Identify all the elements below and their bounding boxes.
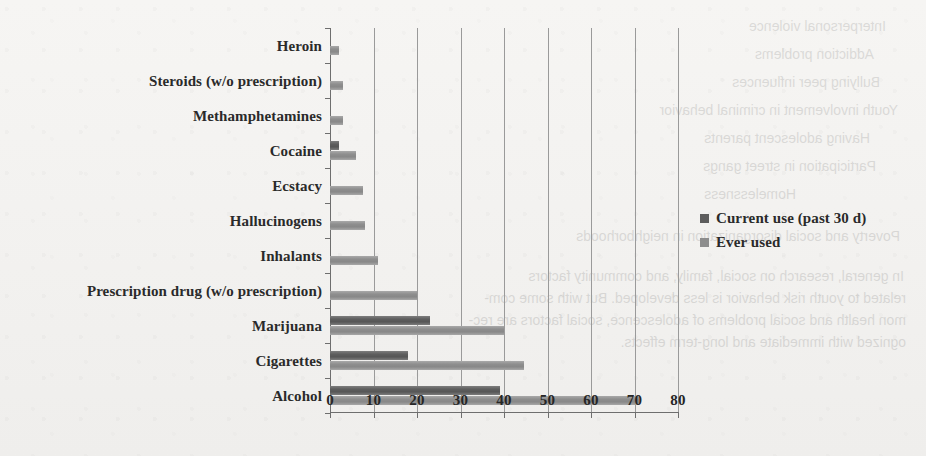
y-axis-tick <box>325 98 331 99</box>
legend-item-label: Ever used <box>716 234 780 251</box>
y-axis-tick <box>325 378 331 379</box>
bar-current-use <box>330 141 339 150</box>
legend-swatch-icon <box>700 238 709 247</box>
x-axis-tick <box>548 412 549 418</box>
legend-swatch-icon <box>700 214 709 223</box>
gridline <box>678 28 679 413</box>
gridline <box>504 28 505 413</box>
x-axis-tick-label: 10 <box>366 392 381 409</box>
y-axis-tick <box>325 63 331 64</box>
y-axis-tick <box>325 273 331 274</box>
x-axis-tick-label: 70 <box>627 392 642 409</box>
bar-ever-used <box>330 326 504 335</box>
y-axis-category-label: Inhalants <box>260 247 322 264</box>
x-axis-tick <box>504 412 505 418</box>
bar-ever-used <box>330 256 378 265</box>
y-axis-tick <box>325 203 331 204</box>
y-axis-tick <box>325 343 331 344</box>
x-axis-tick <box>591 412 592 418</box>
x-axis-tick <box>461 412 462 418</box>
legend-item-ever-used[interactable]: Ever used <box>700 234 866 251</box>
x-axis-tick <box>330 412 331 418</box>
y-axis-category-label: Heroin <box>277 37 322 54</box>
y-axis-category-label: Methamphetamines <box>193 107 322 124</box>
x-axis-tick-label: 0 <box>326 392 334 409</box>
gridline <box>591 28 592 413</box>
gridline <box>548 28 549 413</box>
y-axis-category-label: Ecstacy <box>272 177 322 194</box>
y-axis-category-label: Cocaine <box>270 142 322 159</box>
y-axis-category-label: Cigarettes <box>255 352 322 369</box>
gridline <box>417 28 418 413</box>
y-axis-category-label: Hallucinogens <box>230 212 322 229</box>
plot-area <box>330 28 678 413</box>
x-axis-tick-label: 50 <box>540 392 555 409</box>
bar-ever-used <box>330 186 363 195</box>
x-axis-tick-label: 80 <box>670 392 685 409</box>
bar-ever-used <box>330 116 343 125</box>
y-axis-tick <box>325 238 331 239</box>
bar-ever-used <box>330 221 365 230</box>
y-axis-tick <box>325 168 331 169</box>
x-axis-tick <box>678 412 679 418</box>
x-axis-tick <box>635 412 636 418</box>
y-axis-category-label: Marijuana <box>252 317 322 334</box>
x-axis-tick-label: 40 <box>496 392 511 409</box>
gridline <box>635 28 636 413</box>
x-axis-tick-label: 20 <box>409 392 424 409</box>
bar-ever-used <box>330 291 417 300</box>
gridline <box>461 28 462 413</box>
y-axis-tick <box>325 308 331 309</box>
bar-chart: HeroinSteroids (w/o prescription)Methamp… <box>0 0 926 456</box>
x-axis-tick <box>417 412 418 418</box>
y-axis-category-label: Prescription drug (w/o prescription) <box>87 282 322 299</box>
bar-current-use <box>330 316 430 325</box>
legend-item-current-use[interactable]: Current use (past 30 d) <box>700 210 866 227</box>
bar-current-use <box>330 351 408 360</box>
x-axis-tick <box>374 412 375 418</box>
bar-ever-used <box>330 81 343 90</box>
legend-item-label: Current use (past 30 d) <box>716 210 866 227</box>
x-axis-tick-label: 30 <box>453 392 468 409</box>
y-axis-tick <box>325 28 331 29</box>
chart-legend: Current use (past 30 d) Ever used <box>700 210 866 258</box>
bar-ever-used <box>330 361 524 370</box>
x-axis-tick-label: 60 <box>583 392 598 409</box>
y-axis-tick <box>325 133 331 134</box>
y-axis-category-label: Steroids (w/o prescription) <box>149 72 322 89</box>
bar-ever-used <box>330 46 339 55</box>
bar-ever-used <box>330 151 356 160</box>
y-axis-category-label: Alcohol <box>272 387 322 404</box>
